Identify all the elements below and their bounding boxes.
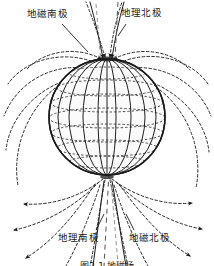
label-geographic-north-pole: 地理北极	[121, 7, 162, 18]
label-geomagnetic-south-pole: 地磁南极	[27, 8, 68, 19]
north-pole-mark	[98, 57, 116, 62]
earth-magnetic-field-figure	[0, 0, 214, 266]
label-geomagnetic-north-pole: 地磁北极	[129, 232, 170, 243]
figure-caption: 图2-1 地磁场	[0, 259, 214, 266]
south-pole-mark	[100, 175, 114, 179]
label-geographic-south-pole: 地理南极	[58, 232, 99, 243]
